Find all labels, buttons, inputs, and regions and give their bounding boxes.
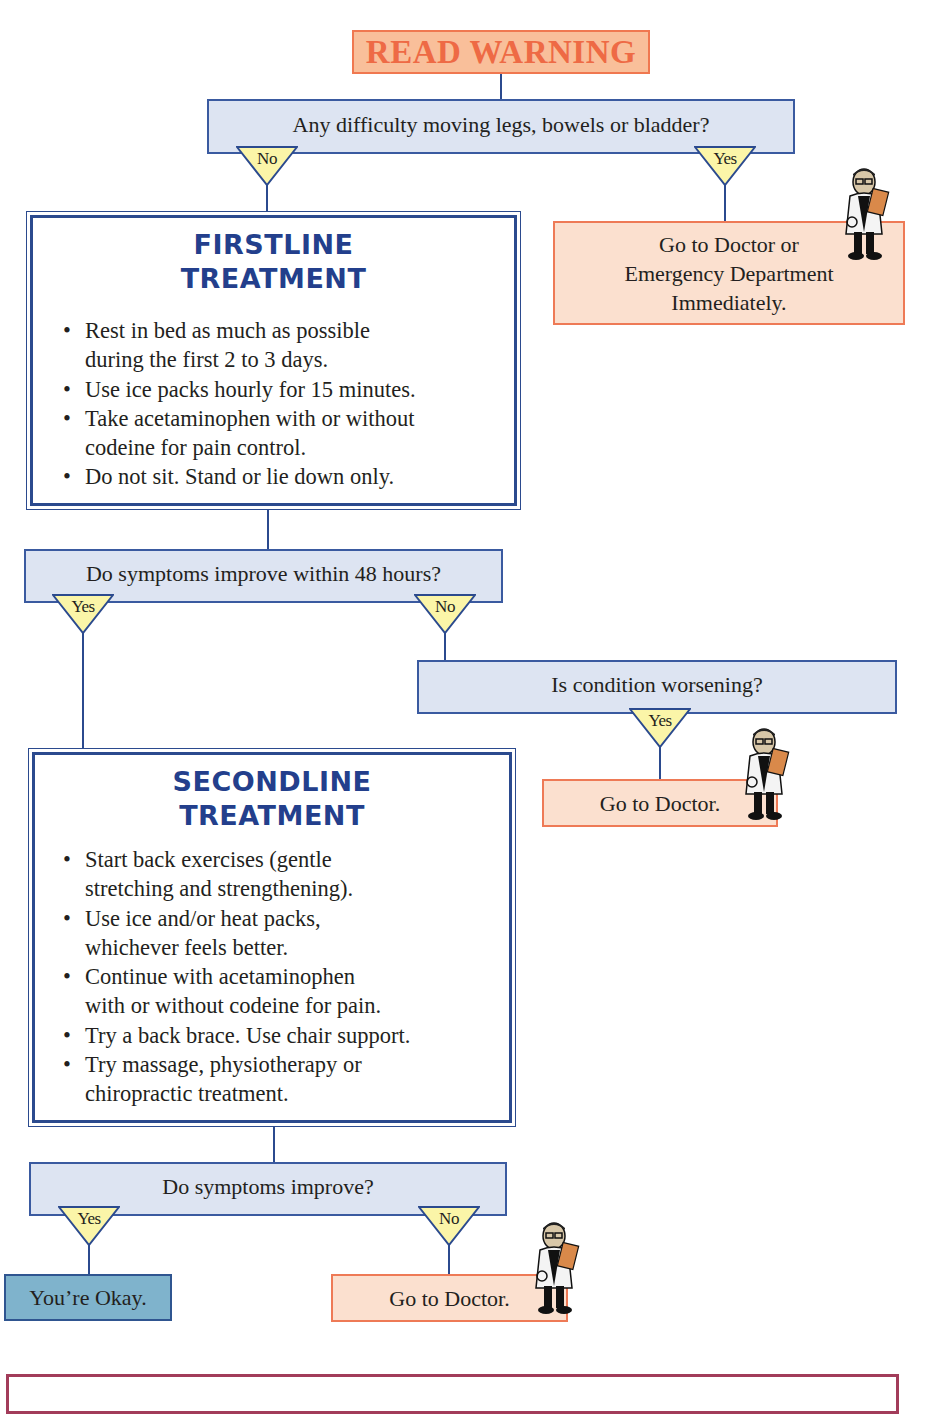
connector-q3-yes xyxy=(659,746,661,780)
doctor-icon xyxy=(532,1220,584,1316)
action-line: Immediately. xyxy=(671,288,786,317)
connector-q4-yes xyxy=(88,1244,90,1275)
bullet-text: Use ice packs hourly for 15 minutes. xyxy=(85,377,416,402)
bullet-text: Try massage, physiotherapy or xyxy=(85,1052,362,1077)
secondline-bullets: Start back exercises (gentlestretching a… xyxy=(59,845,509,1109)
bullet-text: Continue with acetaminophen xyxy=(85,964,355,989)
bullet-item: Try a back brace. Use chair support. xyxy=(59,1021,509,1050)
title-line: TREATMENT xyxy=(29,799,515,833)
bullet-text: Do not sit. Stand or lie down only. xyxy=(85,464,394,489)
decision-yes-marker: Yes xyxy=(58,1206,120,1246)
question-text: Any difficulty moving legs, bowels or bl… xyxy=(293,112,710,138)
bullet-text: during the first 2 to 3 days. xyxy=(85,347,328,372)
decision-label: No xyxy=(418,1209,480,1229)
bullet-item: Use ice and/or heat packs,whichever feel… xyxy=(59,904,509,963)
decision-no-marker: No xyxy=(414,594,476,634)
bullet-text: with or without codeine for pain. xyxy=(85,993,381,1018)
connector-secondline-q4 xyxy=(273,1127,275,1163)
title-line: TREATMENT xyxy=(27,262,520,296)
decision-yes-marker: Yes xyxy=(694,146,756,186)
read-warning-label: READ WARNING xyxy=(366,34,636,71)
decision-label: Yes xyxy=(629,711,691,731)
bullet-text: Rest in bed as much as possible xyxy=(85,318,370,343)
bullet-item: Use ice packs hourly for 15 minutes. xyxy=(59,375,509,404)
action-line: Go to Doctor. xyxy=(600,789,720,818)
doctor-icon xyxy=(742,726,794,822)
bullet-text: codeine for pain control. xyxy=(85,435,306,460)
bullet-item: Try massage, physiotherapy orchiropracti… xyxy=(59,1050,509,1109)
action-line: Go to Doctor. xyxy=(389,1284,509,1313)
connector-firstline-q2 xyxy=(267,510,269,550)
outcome-okay: You’re Okay. xyxy=(4,1274,172,1321)
bullet-item: Continue with acetaminophenwith or witho… xyxy=(59,962,509,1021)
secondline-treatment-box: SECONDLINE TREATMENT Start back exercise… xyxy=(28,748,516,1127)
bullet-text: Try a back brace. Use chair support. xyxy=(85,1023,410,1048)
question-text: Do symptoms improve within 48 hours? xyxy=(86,561,441,587)
decision-label: No xyxy=(414,597,476,617)
connector-q2-yes xyxy=(82,632,84,750)
connector-q2-no xyxy=(444,632,446,662)
connector-q4-no xyxy=(448,1244,450,1275)
bullet-text: stretching and strengthening). xyxy=(85,876,353,901)
connector-q1-yes xyxy=(724,185,726,222)
connector-warning-q1 xyxy=(500,74,502,100)
decision-no-marker: No xyxy=(236,146,298,186)
action-line: Emergency Department xyxy=(624,259,833,288)
decision-label: No xyxy=(236,149,298,169)
outcome-text: You’re Okay. xyxy=(29,1285,146,1311)
decision-yes-marker: Yes xyxy=(629,708,691,748)
decision-no-marker: No xyxy=(418,1206,480,1246)
decision-label: Yes xyxy=(58,1209,120,1229)
bullet-item: Take acetaminophen with or withoutcodein… xyxy=(59,404,509,463)
doctor-icon xyxy=(842,166,894,262)
firstline-bullets: Rest in bed as much as possibleduring th… xyxy=(59,316,509,492)
bullet-text: Start back exercises (gentle xyxy=(85,847,332,872)
firstline-treatment-box: FIRSTLINE TREATMENT Rest in bed as much … xyxy=(26,211,521,510)
secondline-title: SECONDLINE TREATMENT xyxy=(29,765,515,833)
question-text: Do symptoms improve? xyxy=(162,1174,373,1200)
read-warning-box: READ WARNING xyxy=(352,30,650,74)
bullet-item: Start back exercises (gentlestretching a… xyxy=(59,845,509,904)
bullet-text: chiropractic treatment. xyxy=(85,1081,289,1106)
bullet-item: Do not sit. Stand or lie down only. xyxy=(59,462,509,491)
connector-q1-no xyxy=(266,185,268,213)
bullet-text: whichever feels better. xyxy=(85,935,288,960)
title-line: SECONDLINE xyxy=(29,765,515,799)
bullet-text: Use ice and/or heat packs, xyxy=(85,906,321,931)
bottom-info-box xyxy=(6,1374,899,1414)
firstline-title: FIRSTLINE TREATMENT xyxy=(27,228,520,296)
bullet-item: Rest in bed as much as possibleduring th… xyxy=(59,316,509,375)
title-line: FIRSTLINE xyxy=(27,228,520,262)
question-condition-worsening: Is condition worsening? xyxy=(417,660,897,714)
action-line: Go to Doctor or xyxy=(659,230,799,259)
bullet-text: Take acetaminophen with or without xyxy=(85,406,415,431)
question-text: Is condition worsening? xyxy=(551,672,762,698)
decision-label: Yes xyxy=(694,149,756,169)
decision-yes-marker: Yes xyxy=(52,594,114,634)
decision-label: Yes xyxy=(52,597,114,617)
